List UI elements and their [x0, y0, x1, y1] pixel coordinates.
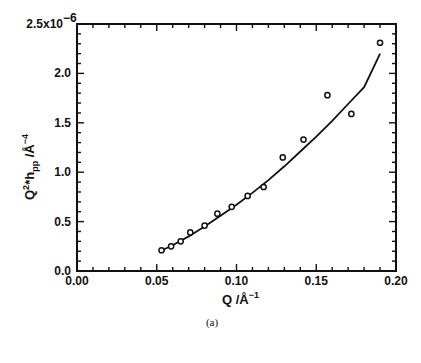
y-label-unit: /Å	[22, 144, 37, 161]
y-label-h: *h	[22, 172, 37, 185]
x-tick-label: 0.15	[305, 274, 329, 288]
data-point	[178, 239, 183, 244]
data-point	[188, 230, 193, 235]
y-tick-label: 0.5	[54, 215, 71, 229]
data-point	[229, 204, 234, 209]
data-point	[280, 155, 285, 160]
y-axis-label: Q2*hpp /Å−4	[20, 134, 40, 200]
plot-frame	[77, 24, 396, 271]
y-axis-ticks	[77, 24, 396, 271]
data-point	[169, 244, 174, 249]
x-tick-label: 0.20	[384, 274, 408, 288]
y-tick-label-exponent: −6	[63, 11, 77, 25]
fit-curve-path	[160, 54, 380, 252]
y-tick-label: 1.5	[54, 116, 71, 130]
y-tick-label: 1.0	[54, 165, 71, 179]
figure: 0.000.050.100.150.20 0.00.51.01.52.02.5x…	[0, 0, 421, 363]
data-point	[202, 223, 207, 228]
data-point	[377, 40, 382, 45]
y-tick-label: 0.0	[54, 264, 71, 278]
x-tick-label: 0.10	[225, 274, 249, 288]
y-label-q: Q	[22, 190, 37, 200]
data-point	[261, 184, 266, 189]
x-axis-label-base: Q /Å	[222, 292, 249, 307]
data-point	[245, 193, 250, 198]
data-point	[159, 248, 164, 253]
data-point	[349, 111, 354, 116]
fit-curve	[160, 54, 380, 252]
y-label-unit-sup: −4	[20, 134, 30, 144]
data-point	[215, 211, 220, 216]
x-axis-ticks	[77, 24, 396, 271]
data-point	[325, 93, 330, 98]
data-point	[301, 137, 306, 142]
plot-border	[77, 24, 396, 271]
x-axis-tick-labels: 0.000.050.100.150.20	[65, 274, 408, 288]
data-points	[159, 40, 383, 253]
y-tick-label: 2.5x10	[26, 17, 63, 31]
x-axis-label-exponent: −1	[249, 290, 259, 300]
x-tick-label: 0.05	[145, 274, 169, 288]
figure-caption: (a)	[206, 316, 219, 329]
y-label-h-sub: pp	[30, 160, 40, 171]
x-axis-label: Q /Å−1	[222, 290, 259, 307]
y-tick-label: 2.0	[54, 66, 71, 80]
